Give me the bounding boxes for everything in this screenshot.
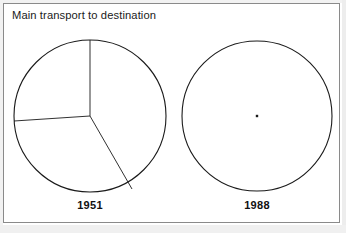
pie-1951-year-label: 1951 [50, 199, 130, 211]
pie-1988-year-label: 1988 [217, 199, 297, 211]
figure-root: Main transport to destination 1951 1988 [0, 0, 346, 233]
scan-edge-bottom [0, 225, 346, 233]
figure-border [3, 3, 340, 223]
scan-edge-right [342, 0, 346, 233]
figure-title: Main transport to destination [12, 8, 156, 22]
